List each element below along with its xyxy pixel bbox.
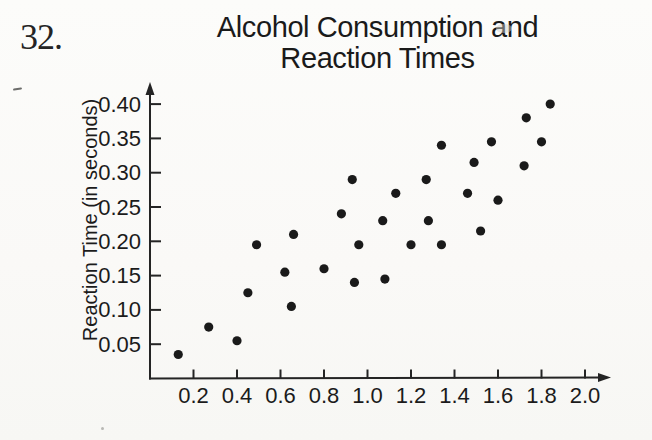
y-tick-label: 0.25	[98, 195, 141, 220]
data-point	[469, 158, 478, 167]
y-tick-label: 0.40	[98, 92, 141, 117]
y-tick-label: 0.15	[98, 263, 141, 288]
scatter-plot: 0.20.40.60.81.01.21.41.61.82.00.050.100.…	[0, 0, 652, 440]
scan-artifact-smudge	[496, 24, 512, 33]
data-point	[252, 240, 261, 249]
data-point	[174, 350, 183, 359]
data-point	[437, 240, 446, 249]
x-tick-label: 0.4	[222, 383, 253, 408]
y-axis-arrow	[146, 82, 155, 95]
data-point	[380, 274, 389, 283]
y-tick-label: 0.20	[98, 229, 141, 254]
data-point	[406, 240, 415, 249]
data-point	[378, 216, 387, 225]
data-point	[204, 322, 213, 331]
x-tick-label: 1.0	[352, 383, 383, 408]
data-point	[232, 336, 241, 345]
data-point	[289, 230, 298, 239]
data-point	[337, 209, 346, 218]
data-point	[319, 264, 328, 273]
data-point	[354, 240, 363, 249]
data-point	[422, 175, 431, 184]
y-tick-label: 0.30	[98, 160, 141, 185]
data-point	[350, 278, 359, 287]
data-point	[280, 268, 289, 277]
y-tick-label: 0.05	[98, 332, 141, 357]
data-point	[287, 302, 296, 311]
scan-artifact-speck	[101, 427, 104, 430]
data-point	[437, 141, 446, 150]
data-point	[493, 196, 502, 205]
data-point	[537, 137, 546, 146]
y-tick-label: 0.10	[98, 297, 141, 322]
x-tick-label: 1.6	[483, 383, 514, 408]
x-tick-label: 0.2	[178, 383, 209, 408]
data-point	[487, 137, 496, 146]
data-point	[243, 288, 252, 297]
x-axis	[149, 378, 602, 379]
x-tick-label: 1.8	[526, 383, 557, 408]
y-axis-title: Reaction Time (in seconds)	[79, 99, 101, 341]
x-tick-label: 0.6	[265, 383, 296, 408]
y-tick-label: 0.35	[98, 126, 141, 151]
data-point	[476, 226, 485, 235]
data-point	[520, 161, 529, 170]
data-point	[348, 175, 357, 184]
x-tick-label: 1.4	[439, 383, 470, 408]
x-tick-label: 1.2	[396, 383, 427, 408]
x-axis-arrow	[598, 373, 611, 382]
data-point	[546, 100, 555, 109]
data-point	[391, 189, 400, 198]
x-tick-label: 0.8	[309, 383, 340, 408]
data-point	[424, 216, 433, 225]
x-tick-label: 2.0	[570, 383, 601, 408]
data-point	[463, 189, 472, 198]
data-point	[522, 113, 531, 122]
scanned-textbook-page: 32. Alcohol Consumption and Reaction Tim…	[0, 0, 652, 440]
